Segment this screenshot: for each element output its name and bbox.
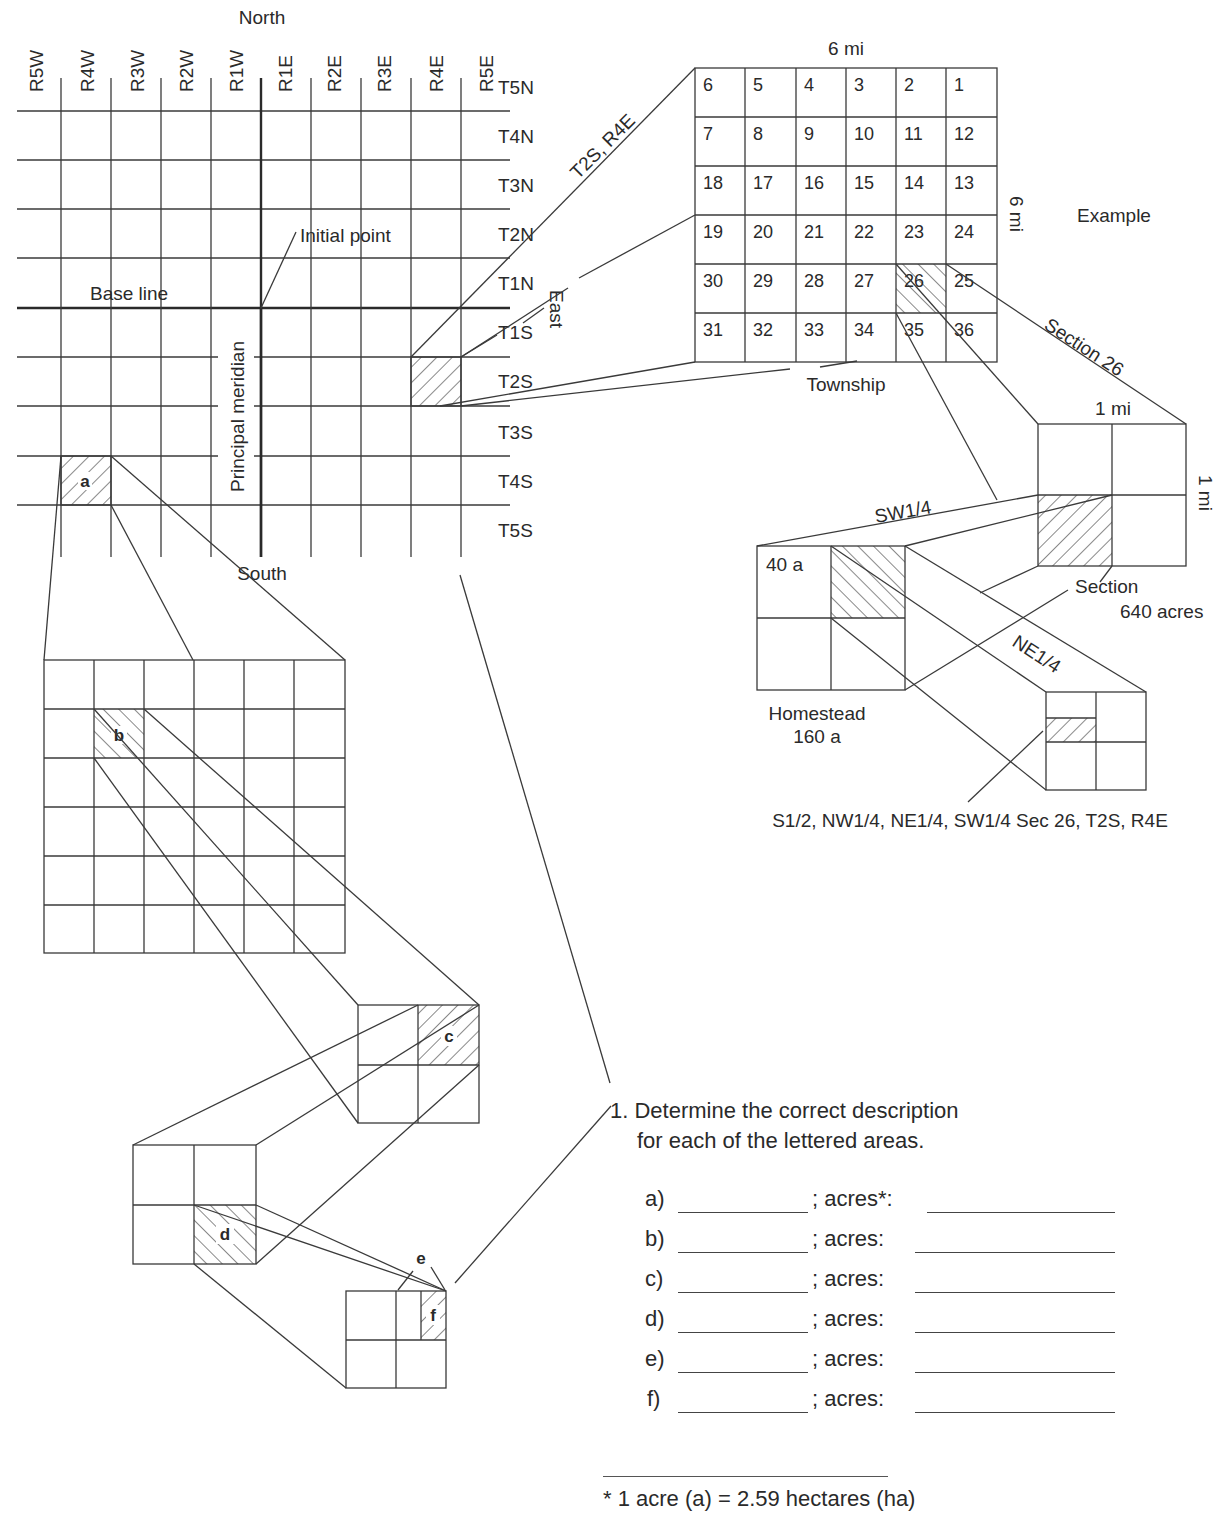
principal-meridian-label: Principal meridian	[227, 341, 248, 492]
range-label: R4E	[426, 55, 447, 92]
answer-letter: d)	[645, 1306, 665, 1332]
township-label: T5S	[498, 520, 533, 541]
range-label: R3W	[127, 50, 148, 92]
description-blank-d[interactable]	[678, 1332, 808, 1333]
answer-letter: c)	[645, 1266, 663, 1292]
section-number: 1	[954, 75, 964, 95]
township-label: T3N	[498, 175, 534, 196]
section-number: 21	[804, 222, 824, 242]
question-line-2: for each of the lettered areas.	[637, 1127, 924, 1155]
area-a-label: a	[80, 472, 90, 491]
area-b-label: b	[114, 726, 124, 745]
section-number: 20	[753, 222, 773, 242]
section-number: 36	[954, 320, 974, 340]
acres-label: ; acres:	[812, 1346, 884, 1372]
section-number: 27	[854, 271, 874, 291]
section-number: 28	[804, 271, 824, 291]
township-callout: T2S, R4E	[566, 110, 639, 183]
township-height-label: 6 mi	[1006, 196, 1027, 232]
section-number: 7	[703, 124, 713, 144]
sw-quarter-callout: SW1/4	[873, 496, 933, 527]
area-f-label: f	[430, 1306, 436, 1325]
acres-blank-e[interactable]	[915, 1372, 1115, 1373]
area-d-label: d	[220, 1225, 230, 1244]
section-number: 9	[804, 124, 814, 144]
north-label: North	[239, 7, 285, 28]
description-blank-b[interactable]	[678, 1252, 808, 1253]
acres-label: ; acres:	[812, 1386, 884, 1412]
range-label: R5W	[26, 50, 47, 92]
description-blank-f[interactable]	[678, 1412, 808, 1413]
township-label: T2S	[498, 371, 533, 392]
description-blank-c[interactable]	[678, 1292, 808, 1293]
section-number: 15	[854, 173, 874, 193]
range-label: R2E	[324, 55, 345, 92]
section-number: 23	[904, 222, 924, 242]
township-label: T1S	[498, 322, 533, 343]
section-number: 16	[804, 173, 824, 193]
township-caption: Township	[806, 374, 885, 395]
section-number: 11	[904, 124, 923, 144]
section-number: 12	[954, 124, 974, 144]
section-number: 17	[753, 173, 773, 193]
answer-letter: e)	[645, 1346, 665, 1372]
area-c-label: c	[444, 1027, 453, 1046]
acres-blank-f[interactable]	[915, 1412, 1115, 1413]
example-description: S1/2, NW1/4, NE1/4, SW1/4 Sec 26, T2S, R…	[772, 810, 1168, 831]
section-number: 31	[703, 320, 723, 340]
section-number: 14	[904, 173, 924, 193]
answer-letter: a)	[645, 1186, 665, 1212]
footnote: * 1 acre (a) = 2.59 hectares (ha)	[603, 1486, 915, 1512]
section-number: 8	[753, 124, 763, 144]
township-label: T1N	[498, 273, 534, 294]
base-line-label: Base line	[90, 283, 168, 304]
section-number: 3	[854, 75, 864, 95]
section-number: 33	[804, 320, 824, 340]
example-label: Example	[1077, 205, 1151, 226]
ne-quarter-highlight	[831, 546, 905, 618]
range-label: R5E	[476, 55, 497, 92]
section-number: 18	[703, 173, 723, 193]
section-callout: Section 26	[1041, 314, 1128, 381]
section-number: 10	[854, 124, 874, 144]
description-blank-e[interactable]	[678, 1372, 808, 1373]
description-blank-a[interactable]	[678, 1212, 808, 1213]
township-label: T4S	[498, 471, 533, 492]
acres-label: ; acres:	[812, 1306, 884, 1332]
section-height-label: 1 mi	[1195, 475, 1216, 511]
range-label: R3E	[374, 55, 395, 92]
footnote-divider	[603, 1476, 888, 1477]
acres-blank-b[interactable]	[915, 1252, 1115, 1253]
homestead-acres: 160 a	[793, 726, 841, 747]
main-grid: North R5W R4W R3W R2W R1W R1E R2E R3E R4…	[17, 7, 567, 584]
section-number: 2	[904, 75, 914, 95]
section-number: 22	[854, 222, 874, 242]
township-t2s-r4e-highlight	[411, 357, 461, 406]
area-e-label: e	[416, 1249, 425, 1268]
question-line-1: 1. Determine the correct description	[610, 1097, 959, 1125]
answer-letter: b)	[645, 1226, 665, 1252]
acres-blank-a[interactable]	[927, 1212, 1115, 1213]
initial-point-label: Initial point	[300, 225, 392, 246]
township-label: T4N	[498, 126, 534, 147]
section-number: 19	[703, 222, 723, 242]
range-label: R1E	[275, 55, 296, 92]
example-parcel-highlight	[1046, 718, 1096, 742]
acres-blank-c[interactable]	[915, 1292, 1115, 1293]
section-number: 13	[954, 173, 974, 193]
initial-point-leader	[261, 232, 296, 308]
section-caption: Section	[1075, 576, 1138, 597]
section-number: 4	[804, 75, 814, 95]
section-number: 30	[703, 271, 723, 291]
section-number: 6	[703, 75, 713, 95]
range-label: R1W	[226, 50, 247, 92]
section-number: 24	[954, 222, 974, 242]
section-width-label: 1 mi	[1095, 398, 1131, 419]
land-survey-diagram: North R5W R4W R3W R2W R1W R1E R2E R3E R4…	[0, 0, 1216, 1530]
range-label: R2W	[176, 50, 197, 92]
township-label: T5N	[498, 77, 534, 98]
homestead-label: Homestead	[768, 703, 865, 724]
south-label: South	[237, 563, 287, 584]
acres-blank-d[interactable]	[915, 1332, 1115, 1333]
quarter-cell-label: 40 a	[766, 554, 803, 575]
